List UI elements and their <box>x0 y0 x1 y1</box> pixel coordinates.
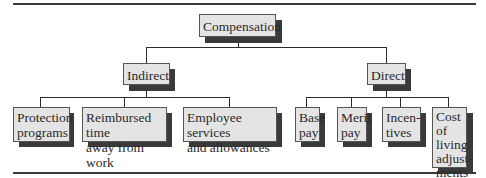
node-label: Incen- tives <box>382 107 421 142</box>
connector-employee <box>229 97 230 107</box>
connector-indirect-bar <box>40 97 230 98</box>
connector-direct-bar <box>306 97 449 98</box>
node-label: Direct <box>367 63 406 85</box>
node-label: Employee services and allowances <box>183 107 277 142</box>
connector-level1-bar <box>146 47 387 48</box>
connector-direct-up <box>386 47 387 63</box>
connector-base <box>306 97 307 107</box>
node-label: Indirect <box>123 63 170 85</box>
connector-reimbursed <box>124 97 125 107</box>
top-rule <box>13 3 476 5</box>
connector-merit <box>351 97 352 107</box>
bottom-rule <box>13 172 476 174</box>
node-label: Reimbursed time away from work <box>82 107 167 142</box>
node-label: Cost of living adjust- ments <box>432 107 467 168</box>
node-label: Base pay <box>295 107 320 142</box>
connector-cost-of-living <box>448 97 449 107</box>
connector-incentives <box>400 97 401 107</box>
node-label: Merit pay <box>337 107 367 142</box>
connector-protection <box>40 97 41 107</box>
connector-indirect-up <box>146 47 147 63</box>
node-label: Protection programs <box>13 107 70 142</box>
node-label: Compensation <box>199 14 276 37</box>
